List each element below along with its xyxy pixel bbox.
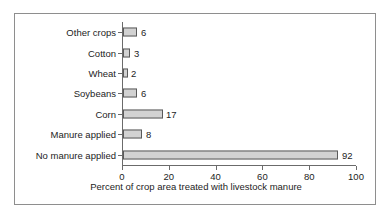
bar-value-label: 6: [141, 27, 146, 38]
plot-area: Other crops 6 Cotton 3 Wheat 2 S: [122, 22, 356, 165]
y-axis-tick: [118, 73, 122, 74]
x-axis-tick: [262, 166, 263, 170]
bar: [123, 48, 130, 57]
chart-screenshot: Other crops 6 Cotton 3 Wheat 2 S: [0, 0, 391, 222]
bar: [123, 68, 128, 77]
x-axis-line: [122, 165, 356, 166]
bar-value-label: 92: [342, 149, 353, 160]
y-axis-tick: [118, 114, 122, 115]
x-axis-title: Percent of crop area treated with livest…: [15, 181, 377, 192]
bar-value-label: 17: [166, 108, 177, 119]
bar: [123, 28, 137, 37]
x-axis-tick: [309, 166, 310, 170]
y-axis-tick: [118, 93, 122, 94]
y-axis-tick: [118, 53, 122, 54]
category-label: Cotton: [88, 47, 116, 58]
x-axis-tick: [216, 166, 217, 170]
chart-frame: Other crops 6 Cotton 3 Wheat 2 S: [14, 13, 376, 205]
bar-value-label: 3: [134, 47, 139, 58]
bar-value-label: 2: [131, 67, 136, 78]
bar: [123, 150, 338, 159]
category-label: Corn: [95, 108, 116, 119]
y-axis-tick: [118, 155, 122, 156]
bar: [123, 89, 137, 98]
category-label: Soybeans: [74, 88, 116, 99]
x-axis-tick: [356, 166, 357, 170]
bar: [123, 130, 142, 139]
category-label: No manure applied: [36, 149, 116, 160]
category-label: Manure applied: [51, 129, 117, 140]
y-axis-tick: [118, 32, 122, 33]
bar: [123, 109, 163, 118]
x-axis-tick: [169, 166, 170, 170]
bar-value-label: 8: [146, 129, 151, 140]
bar-value-label: 6: [141, 88, 146, 99]
x-axis-tick: [122, 166, 123, 170]
y-axis-tick: [118, 134, 122, 135]
category-label: Wheat: [89, 67, 116, 78]
category-label: Other crops: [66, 27, 116, 38]
